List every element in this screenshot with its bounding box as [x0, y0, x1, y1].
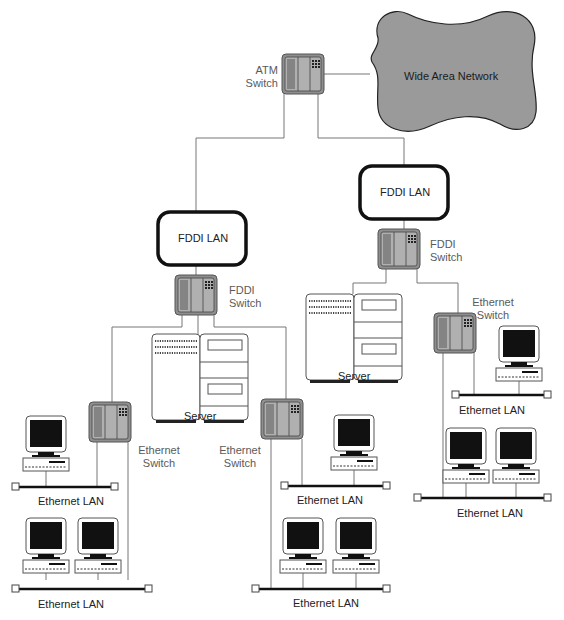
- pc-icon: [331, 415, 377, 470]
- fddi-switch-left-icon: [175, 275, 217, 315]
- fddi-switch-left-label: FDDI Switch: [229, 284, 261, 310]
- wan-label: Wide Area Network: [404, 70, 498, 83]
- pc-icon: [75, 518, 121, 573]
- ethernet-lan-6-label: Ethernet LAN: [457, 507, 523, 520]
- ethernet-lan-4-label: Ethernet LAN: [293, 597, 359, 610]
- ethernet-switch-2-icon: [261, 399, 303, 439]
- ethernet-switch-2-label: Ethernet Switch: [217, 444, 263, 470]
- fddi-switch-right-label-line1: FDDI: [430, 238, 462, 251]
- pc-icon: [23, 416, 69, 471]
- ethernet-lan-2-label: Ethernet LAN: [38, 598, 104, 611]
- ethernet-lan-5-label: Ethernet LAN: [459, 404, 525, 417]
- server-right-label: Server: [338, 370, 370, 383]
- pc-icon: [280, 518, 326, 573]
- ethernet-switch-2-label-line1: Ethernet: [217, 444, 263, 457]
- pc-icon: [496, 326, 542, 381]
- fddi-switch-left-label-line1: FDDI: [229, 284, 261, 297]
- ethernet-switch-3-label-line1: Ethernet: [470, 296, 516, 309]
- ethernet-switch-1-label: Ethernet Switch: [136, 444, 182, 470]
- ethernet-lan-3-label: Ethernet LAN: [297, 494, 363, 507]
- pc-icon: [443, 428, 489, 483]
- fddi-switch-right-label-line2: Switch: [430, 251, 462, 264]
- pc-icon: [333, 518, 379, 573]
- pc-icon: [493, 428, 539, 483]
- server-left-label: Server: [184, 410, 216, 423]
- ethernet-switch-2-label-line2: Switch: [217, 457, 263, 470]
- pc-icon: [23, 518, 69, 573]
- fddi-switch-right-label: FDDI Switch: [430, 238, 462, 264]
- ethernet-switch-1-label-line1: Ethernet: [136, 444, 182, 457]
- atm-switch-icon: [282, 54, 324, 94]
- atm-switch-label-line2: Switch: [238, 77, 278, 90]
- atm-switch-label-line1: ATM: [238, 64, 278, 77]
- fddi-lan-right-label: FDDI LAN: [380, 186, 430, 199]
- ethernet-lan-1-label: Ethernet LAN: [38, 495, 104, 508]
- fddi-switch-right-icon: [378, 229, 420, 269]
- ethernet-switch-1-icon: [89, 402, 131, 442]
- ethernet-switch-1-label-line2: Switch: [136, 457, 182, 470]
- ethernet-switch-3-label: Ethernet Switch: [470, 296, 516, 322]
- fddi-switch-left-label-line2: Switch: [229, 297, 261, 310]
- ethernet-switch-3-label-line2: Switch: [470, 309, 516, 322]
- fddi-lan-left-label: FDDI LAN: [178, 232, 228, 245]
- atm-switch-label: ATM Switch: [238, 64, 278, 90]
